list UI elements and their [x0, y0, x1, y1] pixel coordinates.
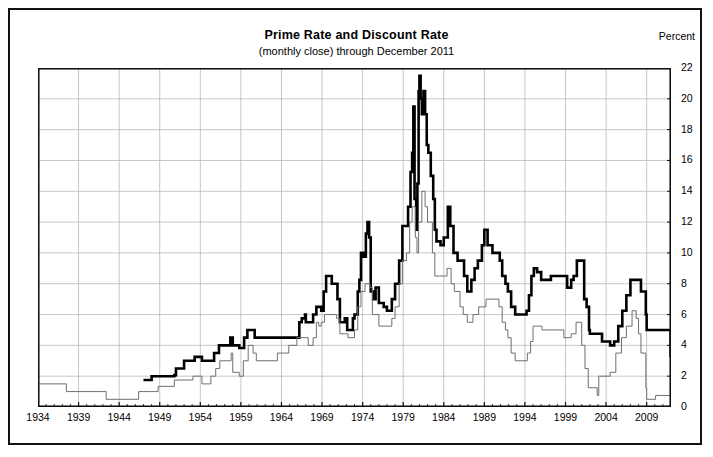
x-tick-label: 1959 [221, 411, 261, 423]
plot-area [38, 68, 671, 407]
x-tick-label: 1939 [59, 411, 99, 423]
y-tick-label: 22 [681, 61, 693, 73]
x-tick-label: 1984 [424, 411, 464, 423]
y-tick-label: 16 [681, 153, 693, 165]
x-tick-label: 1934 [18, 411, 58, 423]
x-tick-label: 1949 [140, 411, 180, 423]
y-tick-label: 12 [681, 215, 693, 227]
y-axis-labels: 0246810121416182022 [676, 0, 712, 457]
y-tick-label: 20 [681, 92, 693, 104]
y-tick-label: 8 [681, 277, 687, 289]
title-block: Prime Rate and Discount Rate (monthly cl… [0, 28, 713, 58]
x-tick-label: 1989 [464, 411, 504, 423]
y-tick-label: 4 [681, 338, 687, 350]
x-tick-label: 1994 [505, 411, 545, 423]
x-tick-label: 1999 [546, 411, 586, 423]
x-tick-label: 1979 [383, 411, 423, 423]
x-tick-label: 1944 [99, 411, 139, 423]
x-axis-labels: 1934193919441949195419591964196919741979… [0, 411, 713, 431]
x-tick-label: 1964 [261, 411, 301, 423]
chart-figure: Prime Rate and Discount Rate (monthly cl… [0, 0, 713, 457]
x-tick-label: 2004 [586, 411, 626, 423]
plot-background [38, 68, 671, 407]
y-tick-label: 14 [681, 184, 693, 196]
y-tick-label: 10 [681, 246, 693, 258]
x-tick-label: 1954 [180, 411, 220, 423]
y-tick-label: 2 [681, 369, 687, 381]
page-title: Prime Rate and Discount Rate [0, 28, 713, 43]
x-tick-label: 1974 [343, 411, 383, 423]
x-tick-label: 1969 [302, 411, 342, 423]
chart-subtitle: (monthly close) through December 2011 [0, 44, 713, 58]
y-tick-label: 6 [681, 308, 687, 320]
chart-svg [38, 68, 671, 407]
x-tick-label: 2009 [627, 411, 667, 423]
y-tick-label: 18 [681, 123, 693, 135]
